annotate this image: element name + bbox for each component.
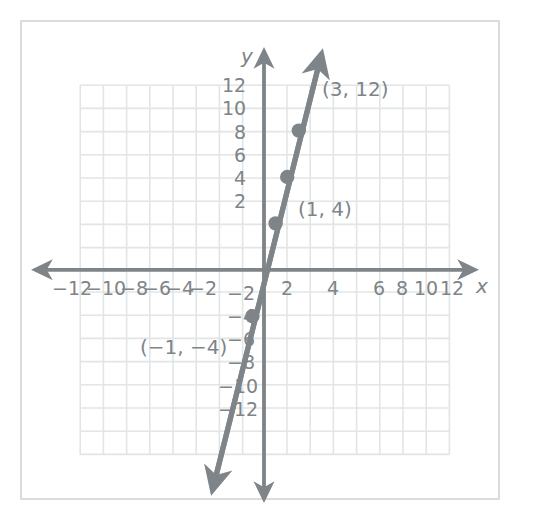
data-point-1-4 bbox=[268, 216, 282, 230]
figure-canvas: −12 −10 −8 −6 −4 −2 2 4 6 8 10 12 12 10 … bbox=[0, 0, 542, 527]
x-tick-label-8: 8 bbox=[396, 279, 408, 298]
y-tick-label-2: 2 bbox=[234, 192, 246, 211]
x-tick-label-6: 6 bbox=[373, 279, 385, 298]
y-tick-label--6: −6 bbox=[227, 330, 255, 349]
x-tick-label-4: 4 bbox=[327, 279, 339, 298]
data-point-2-8 bbox=[280, 170, 294, 184]
y-tick-label-12: 12 bbox=[222, 76, 246, 95]
y-tick-label--12: −12 bbox=[218, 400, 258, 419]
y-tick-label-4: 4 bbox=[234, 169, 246, 188]
y-tick-label--4: −4 bbox=[227, 307, 255, 326]
x-tick-label-10: 10 bbox=[414, 279, 438, 298]
y-tick-label-6: 6 bbox=[234, 146, 246, 165]
y-tick-label--2: −2 bbox=[227, 284, 255, 303]
point-annotation--1--4: (−1, −4) bbox=[140, 337, 227, 357]
point-annotation-1-4: (1, 4) bbox=[298, 199, 352, 219]
y-tick-label-10: 10 bbox=[222, 99, 246, 118]
point-annotation-3-12: (3, 12) bbox=[322, 79, 389, 99]
y-axis-name: y bbox=[241, 46, 253, 66]
y-tick-label-8: 8 bbox=[234, 123, 246, 142]
x-tick-label-12: 12 bbox=[440, 279, 464, 298]
y-tick-label--10: −10 bbox=[218, 377, 258, 396]
y-tick-label--8: −8 bbox=[227, 353, 255, 372]
x-tick-label-2: 2 bbox=[281, 279, 293, 298]
x-tick-label--2: −2 bbox=[189, 279, 217, 298]
coordinate-plane bbox=[0, 0, 542, 527]
data-point-3-12 bbox=[292, 123, 306, 137]
x-axis-name: x bbox=[476, 276, 488, 296]
